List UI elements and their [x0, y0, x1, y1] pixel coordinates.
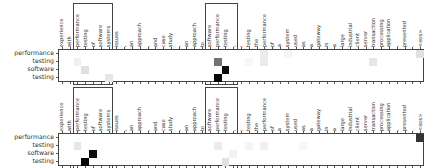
x-tick	[171, 131, 172, 133]
column-label: processing	[378, 103, 383, 131]
attention-cell	[81, 66, 89, 74]
x-tick	[163, 166, 164, 168]
column-label: large	[340, 34, 345, 47]
column-label: presented	[402, 21, 407, 47]
column-label: the	[254, 123, 259, 132]
x-tick	[303, 47, 304, 49]
x-tick	[93, 131, 94, 133]
x-tick	[358, 47, 359, 49]
x-tick	[171, 47, 172, 49]
x-tick	[311, 131, 312, 133]
column-label: system	[285, 28, 290, 47]
x-tick	[202, 47, 203, 49]
x-tick	[155, 166, 156, 168]
column-label: approach	[192, 23, 197, 47]
x-tick	[373, 47, 374, 49]
x-tick	[124, 166, 125, 168]
x-tick	[77, 166, 78, 168]
row-label: performance	[0, 134, 54, 140]
x-tick	[241, 47, 242, 49]
column-label: performance	[262, 14, 267, 47]
column-label: used	[293, 119, 298, 131]
row-label: software	[0, 66, 54, 72]
column-label: systems	[106, 26, 111, 47]
x-tick	[381, 166, 382, 168]
x-tick	[140, 131, 141, 133]
column-label: testing	[223, 29, 228, 47]
column-label: application	[386, 19, 391, 48]
x-tick	[342, 47, 343, 49]
x-tick	[412, 166, 413, 168]
x-tick	[186, 166, 187, 168]
column-label: software	[207, 25, 212, 47]
y-tick	[56, 69, 58, 70]
x-tick	[350, 166, 351, 168]
column-label: testing	[246, 29, 251, 47]
x-tick	[202, 166, 203, 168]
x-tick	[389, 47, 390, 49]
x-tick	[397, 131, 398, 133]
x-tick	[194, 47, 195, 49]
x-tick	[257, 131, 258, 133]
x-tick	[420, 166, 421, 168]
x-tick	[186, 47, 187, 49]
x-tick	[109, 166, 110, 168]
x-tick	[93, 166, 94, 168]
attention-cell	[214, 74, 222, 82]
x-tick	[171, 166, 172, 168]
x-tick	[311, 47, 312, 49]
column-label: and	[153, 37, 158, 47]
x-tick	[148, 47, 149, 49]
x-tick	[241, 131, 242, 133]
x-tick	[155, 131, 156, 133]
x-tick	[249, 131, 250, 133]
column-label: experience	[59, 102, 64, 131]
x-tick	[179, 166, 180, 168]
x-tick	[303, 131, 304, 133]
row-label: performance	[0, 50, 54, 56]
y-tick	[56, 153, 58, 154]
y-tick	[56, 53, 58, 54]
x-tick	[77, 47, 78, 49]
attention-cell	[229, 150, 237, 158]
y-tick	[56, 137, 58, 138]
attention-cell	[260, 142, 268, 150]
x-tick	[210, 47, 211, 49]
x-tick	[319, 47, 320, 49]
x-tick	[62, 131, 63, 133]
x-tick	[311, 166, 312, 168]
x-tick	[148, 131, 149, 133]
x-tick	[132, 131, 133, 133]
x-tick	[116, 47, 117, 49]
x-tick	[179, 47, 180, 49]
column-label: study	[168, 33, 173, 47]
x-tick	[194, 166, 195, 168]
column-label: performance	[215, 14, 220, 47]
column-label: approach	[192, 107, 197, 131]
x-tick	[85, 47, 86, 49]
x-tick	[210, 166, 211, 168]
x-tick	[296, 131, 297, 133]
x-tick	[225, 131, 226, 133]
row-label: testing	[0, 158, 54, 164]
x-tick	[225, 47, 226, 49]
x-tick	[319, 166, 320, 168]
x-tick	[334, 166, 335, 168]
attention-cell	[299, 142, 307, 150]
attention-cell	[214, 58, 222, 66]
column-label: case	[160, 119, 165, 131]
column-label: industrial	[347, 107, 352, 131]
x-tick	[249, 47, 250, 49]
row-label: testing	[0, 142, 54, 148]
heatmap-panel-bottom: experiencewithperformancetestingofsoftwa…	[0, 84, 441, 168]
x-tick	[288, 166, 289, 168]
x-tick	[77, 131, 78, 133]
column-label: testing	[83, 113, 88, 131]
x-tick	[358, 131, 359, 133]
x-tick	[124, 131, 125, 133]
x-tick	[233, 166, 234, 168]
x-tick	[163, 131, 164, 133]
x-tick	[62, 47, 63, 49]
attention-cell	[245, 58, 253, 66]
x-tick	[327, 131, 328, 133]
